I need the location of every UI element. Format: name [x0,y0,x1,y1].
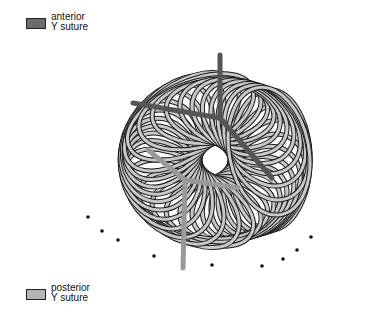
lens-fiber-diagram [0,0,380,314]
fiber-loops [106,53,325,267]
